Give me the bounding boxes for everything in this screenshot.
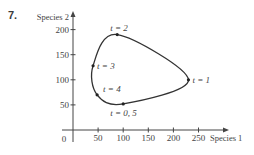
- x-tick-label: 250: [192, 133, 206, 143]
- time-point-dot: [187, 78, 190, 81]
- origin-label: 0: [62, 134, 67, 144]
- x-axis-label: Species 1: [210, 133, 242, 143]
- x-tick-label: 200: [167, 133, 181, 143]
- time-point-label: t = 0, 5: [110, 108, 137, 118]
- y-tick-label: 200: [56, 25, 70, 35]
- y-axis-label: Species 2: [37, 12, 69, 22]
- time-point-dot: [95, 93, 98, 96]
- y-axis-arrow-icon: [71, 11, 76, 17]
- time-point-dot: [116, 33, 119, 36]
- x-tick-label: 150: [142, 133, 156, 143]
- y-tick-label: 50: [60, 100, 70, 110]
- x-tick-label: 100: [116, 133, 130, 143]
- phase-plane-chart: 50100150200250 50100150200 0 Species 1 S…: [0, 0, 254, 155]
- y-tick-label: 150: [56, 50, 70, 60]
- x-tick-label: 50: [94, 133, 104, 143]
- time-point-label: t = 3: [97, 61, 115, 71]
- x-axis-arrow-icon: [223, 128, 229, 133]
- time-point-label: t = 2: [110, 23, 128, 33]
- time-point-dot: [91, 64, 94, 67]
- time-point-label: t = 4: [103, 84, 121, 94]
- y-tick-label: 100: [56, 75, 70, 85]
- time-point-dot: [122, 102, 125, 105]
- time-point-label: t = 1: [192, 75, 210, 85]
